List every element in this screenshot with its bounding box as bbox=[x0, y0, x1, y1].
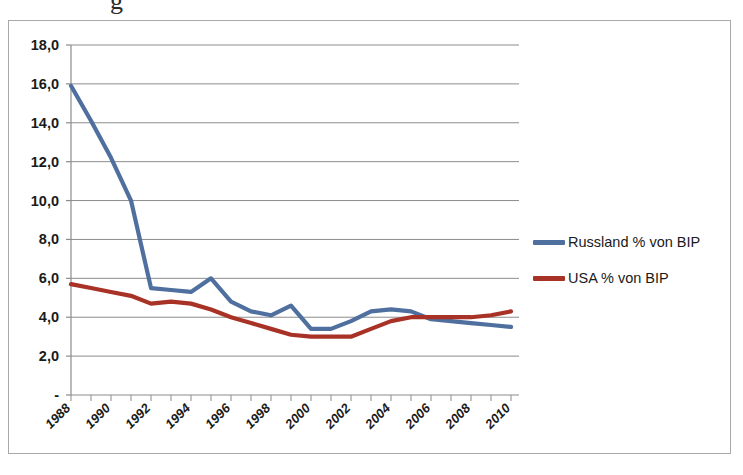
legend-swatch-russland bbox=[533, 240, 565, 245]
legend-item-usa[interactable]: USA % von BIP bbox=[533, 265, 738, 291]
svg-text:12,0: 12,0 bbox=[31, 154, 59, 170]
legend-item-russland[interactable]: Russland % von BIP bbox=[533, 229, 738, 255]
svg-text:14,0: 14,0 bbox=[31, 115, 59, 131]
svg-text:2004: 2004 bbox=[361, 400, 393, 432]
svg-text:1998: 1998 bbox=[242, 400, 274, 432]
svg-text:2,0: 2,0 bbox=[39, 348, 59, 364]
clipped-text-fragment: g bbox=[110, 0, 124, 16]
svg-text:1988: 1988 bbox=[42, 400, 74, 432]
series-line-usa bbox=[71, 284, 511, 337]
series-lines bbox=[71, 86, 511, 337]
legend-label-russland: Russland % von BIP bbox=[568, 234, 700, 250]
svg-text:1996: 1996 bbox=[202, 400, 234, 432]
svg-text:-: - bbox=[54, 387, 59, 403]
svg-text:8,0: 8,0 bbox=[39, 231, 59, 247]
chart-container: -2,04,06,08,010,012,014,016,018,0 198819… bbox=[8, 20, 731, 454]
svg-text:2002: 2002 bbox=[321, 400, 353, 432]
svg-text:1990: 1990 bbox=[82, 400, 114, 432]
svg-text:2010: 2010 bbox=[481, 400, 513, 432]
svg-text:18,0: 18,0 bbox=[31, 37, 59, 53]
svg-text:16,0: 16,0 bbox=[31, 76, 59, 92]
svg-text:1994: 1994 bbox=[162, 400, 194, 432]
svg-text:6,0: 6,0 bbox=[39, 270, 59, 286]
svg-text:2000: 2000 bbox=[281, 400, 313, 432]
svg-text:4,0: 4,0 bbox=[39, 309, 59, 325]
svg-text:2006: 2006 bbox=[401, 400, 433, 432]
x-axis-tick-labels: 1988199019921994199619982000200220042006… bbox=[42, 400, 514, 432]
y-axis-tick-labels: -2,04,06,08,010,012,014,016,018,0 bbox=[31, 37, 59, 403]
svg-text:1992: 1992 bbox=[122, 400, 154, 432]
svg-text:10,0: 10,0 bbox=[31, 193, 59, 209]
legend-swatch-usa bbox=[533, 276, 565, 281]
svg-text:2008: 2008 bbox=[441, 400, 473, 432]
legend-label-usa: USA % von BIP bbox=[568, 270, 669, 286]
chart-legend: Russland % von BIP USA % von BIP bbox=[533, 229, 738, 301]
x-axis-ticks bbox=[71, 395, 511, 401]
